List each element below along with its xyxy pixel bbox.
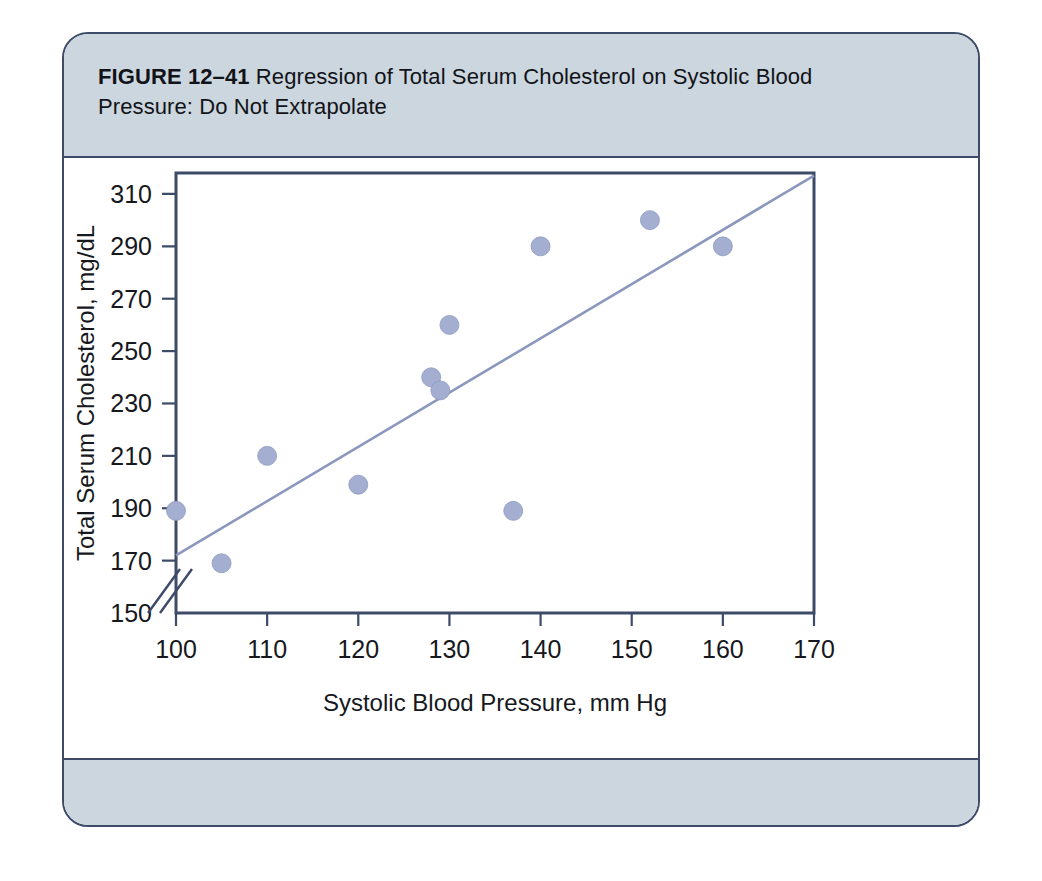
data-point — [431, 381, 450, 400]
y-tick-label: 250 — [110, 337, 152, 365]
data-point — [640, 211, 659, 230]
y-tick-label: 270 — [110, 285, 152, 313]
figure-card: FIGURE 12–41 Regression of Total Serum C… — [62, 32, 980, 827]
y-axis-break-icon — [148, 569, 192, 613]
y-axis-ticks: 150170190210230250270290310 — [110, 180, 176, 627]
x-tick-label: 160 — [702, 635, 744, 663]
x-tick-label: 170 — [793, 635, 835, 663]
figure-caption-band: FIGURE 12–41 Regression of Total Serum C… — [64, 34, 978, 158]
x-tick-label: 140 — [520, 635, 562, 663]
x-tick-label: 130 — [429, 635, 471, 663]
regression-line — [176, 176, 814, 556]
figure-caption: FIGURE 12–41 Regression of Total Serum C… — [98, 62, 878, 122]
data-point-group — [167, 211, 733, 573]
data-point — [713, 237, 732, 256]
data-point — [258, 446, 277, 465]
data-point — [349, 475, 368, 494]
y-tick-label: 210 — [110, 442, 152, 470]
y-tick-label: 170 — [110, 547, 152, 575]
x-tick-label: 120 — [337, 635, 379, 663]
figure-footer-band — [64, 758, 978, 825]
y-tick-label: 150 — [110, 599, 152, 627]
x-tick-label: 100 — [155, 635, 197, 663]
y-tick-label: 310 — [110, 180, 152, 208]
y-axis-title: Total Serum Cholesterol, mg/dL — [72, 225, 99, 561]
data-point — [212, 554, 231, 573]
y-tick-label: 230 — [110, 389, 152, 417]
x-tick-label: 150 — [611, 635, 653, 663]
x-tick-label: 110 — [247, 635, 287, 663]
data-point — [440, 315, 459, 334]
plot-stage: 150170190210230250270290310 100110120130… — [64, 158, 980, 764]
y-tick-label: 290 — [110, 232, 152, 260]
y-tick-label: 190 — [110, 494, 152, 522]
data-point — [504, 501, 523, 520]
scatter-chart: 150170190210230250270290310 100110120130… — [64, 158, 980, 764]
data-point — [531, 237, 550, 256]
figure-number-label: FIGURE 12–41 — [98, 64, 250, 89]
data-point — [167, 501, 186, 520]
x-axis-title: Systolic Blood Pressure, mm Hg — [323, 689, 667, 716]
x-axis-ticks: 100110120130140150160170 — [155, 613, 835, 663]
